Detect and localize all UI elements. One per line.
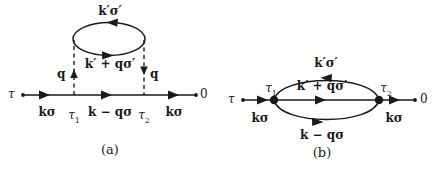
label-zero-end-a: 0 — [200, 88, 208, 100]
label-outgoing-momentum-a: kσ — [165, 106, 182, 118]
loop-arc-lower-b — [274, 100, 379, 120]
label-incoming-momentum-b: kσ — [251, 112, 268, 124]
label-vertex-tau2-a: τ2 — [138, 106, 150, 125]
endpoint-dot-right-b — [413, 98, 417, 102]
label-tau-start-a: τ — [8, 88, 15, 100]
feynman-diagram-figure: τ 0 kσ k − qσ kσ τ1 τ2 q q k′σ′ k′ + qσ′… — [0, 0, 436, 172]
label-loop-top-a: k′σ′ — [98, 5, 122, 17]
arrowhead-interaction-left-a — [70, 70, 78, 79]
arrowhead-incoming-a — [39, 91, 50, 100]
label-vertex-tau2-sub-b: 2 — [387, 89, 392, 98]
label-incoming-momentum-a: kσ — [38, 106, 55, 118]
endpoint-dot-left-b — [241, 98, 245, 102]
arrowhead-middle-b — [315, 96, 326, 105]
label-vertex-tau1-a: τ1 — [68, 106, 80, 125]
label-loop-bottom-a: k′ + qσ′ — [85, 58, 135, 70]
label-loop-bottom-b: k − qσ — [300, 129, 344, 141]
label-vertex-tau2-b: τ2 — [380, 79, 392, 98]
label-loop-middle-b: k′ + qσ′ — [297, 80, 347, 92]
label-vertex-tau2-symbol-a: τ — [138, 108, 145, 122]
label-vertex-tau1-b: τ1 — [265, 79, 277, 98]
arrowhead-outgoing-a — [168, 91, 179, 100]
label-interaction-q-left-a: q — [57, 68, 65, 80]
endpoint-dot-left-a — [21, 93, 25, 97]
label-vertex-tau1-symbol-b: τ — [265, 81, 272, 95]
label-outgoing-momentum-b: kσ — [385, 112, 402, 124]
caption-a: (a) — [101, 143, 119, 156]
loop-ellipse-a — [73, 23, 145, 56]
label-vertex-tau2-sub-a: 2 — [145, 116, 150, 125]
label-zero-end-b: 0 — [420, 93, 428, 105]
caption-b: (b) — [313, 146, 331, 159]
label-vertex-tau2-symbol-b: τ — [380, 81, 387, 95]
label-vertex-tau1-sub-b: 1 — [272, 89, 277, 98]
arrowhead-middle-a — [101, 91, 112, 100]
label-vertex-tau1-symbol-a: τ — [68, 108, 75, 122]
label-middle-momentum-a: k − qσ — [88, 106, 132, 118]
label-tau-start-b: τ — [228, 93, 235, 105]
arrowhead-interaction-right-a — [140, 67, 148, 76]
label-vertex-tau1-sub-a: 1 — [75, 116, 80, 125]
endpoint-dot-right-a — [194, 93, 198, 97]
arrowhead-loop-top-a — [107, 19, 119, 27]
label-interaction-q-right-a: q — [150, 68, 158, 80]
diagram-canvas — [0, 0, 436, 172]
label-loop-top-b: k′σ′ — [314, 57, 338, 69]
